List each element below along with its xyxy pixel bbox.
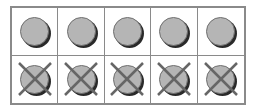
ten-frame bbox=[10, 6, 246, 105]
counter-icon bbox=[159, 65, 188, 94]
counter-icon bbox=[20, 65, 49, 94]
frame-cell bbox=[151, 8, 197, 56]
counter-icon bbox=[159, 17, 188, 46]
counter-icon bbox=[113, 17, 142, 46]
frame-cell-crossed bbox=[151, 56, 197, 104]
frame-cell bbox=[105, 8, 151, 56]
frame-cell-crossed bbox=[12, 56, 58, 104]
counter-icon bbox=[67, 65, 96, 94]
frame-cell-crossed bbox=[198, 56, 244, 104]
counter-icon bbox=[67, 17, 96, 46]
counter-icon bbox=[206, 17, 235, 46]
counter-icon bbox=[113, 65, 142, 94]
frame-cell bbox=[198, 8, 244, 56]
counter-icon bbox=[206, 65, 235, 94]
frame-cell bbox=[58, 8, 104, 56]
frame-cell bbox=[12, 8, 58, 56]
frame-cell-crossed bbox=[105, 56, 151, 104]
counter-icon bbox=[20, 17, 49, 46]
frame-cell-crossed bbox=[58, 56, 104, 104]
